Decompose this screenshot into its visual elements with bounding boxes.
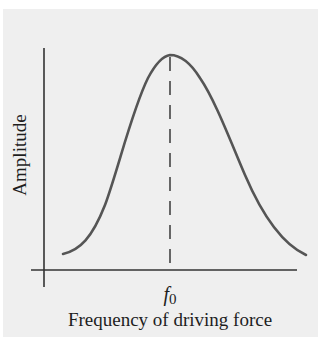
f0-tick-subscript: 0 — [169, 291, 177, 307]
plot-area — [0, 0, 318, 341]
resonance-curve — [63, 55, 306, 255]
y-axis-label: Amplitude — [9, 114, 31, 195]
f0-tick-label: f0 — [163, 283, 176, 308]
resonance-figure: Amplitude f0 Frequency of driving force — [0, 0, 318, 341]
x-axis-label: Frequency of driving force — [68, 309, 272, 331]
